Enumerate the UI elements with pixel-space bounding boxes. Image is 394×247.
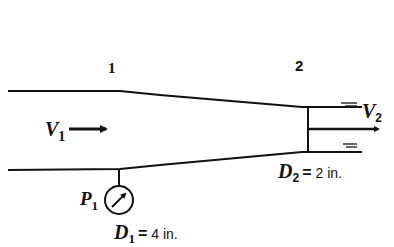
section-2-label: 2 (295, 57, 303, 74)
section-1-label: 1 (108, 60, 116, 76)
pressure-label: P1 (79, 188, 98, 213)
pressure-gauge-icon (105, 169, 133, 214)
inlet-diameter-label: D1=4 in. (113, 221, 178, 246)
outlet-velocity-label: V2 (362, 100, 382, 125)
outlet-diameter-label: D2=2 in. (277, 160, 342, 185)
jet-surface-marks (341, 103, 357, 147)
inlet-velocity-label: V1 (45, 118, 65, 144)
pipe-wall-top (8, 91, 362, 107)
nozzle-diagram: 1 2 V1 V2 P1 D1=4 in. D2=2 in. (0, 0, 394, 247)
